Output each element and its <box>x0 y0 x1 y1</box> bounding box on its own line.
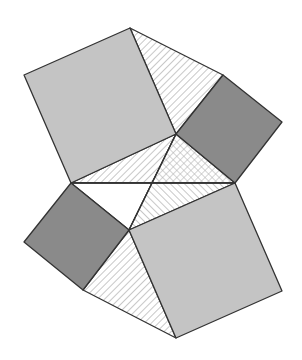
geometric-diagram <box>0 0 302 360</box>
